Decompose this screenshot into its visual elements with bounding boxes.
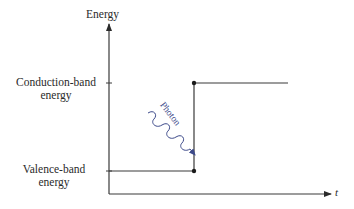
conduction-point: [192, 81, 196, 85]
valence-label-line1: Valence-band: [14, 163, 94, 176]
conduction-label-line1: Conduction-band: [8, 76, 104, 89]
energy-axis-label: Energy: [86, 8, 119, 21]
valence-point: [192, 169, 196, 173]
conduction-band-label: Conduction-band energy: [8, 76, 104, 102]
valence-band-label: Valence-band energy: [14, 163, 94, 189]
time-axis-label: t: [335, 186, 338, 199]
energy-band-diagram: Energy t Conduction-band energy Valence-…: [0, 0, 354, 209]
valence-label-line2: energy: [14, 176, 94, 189]
conduction-label-line2: energy: [8, 89, 104, 102]
